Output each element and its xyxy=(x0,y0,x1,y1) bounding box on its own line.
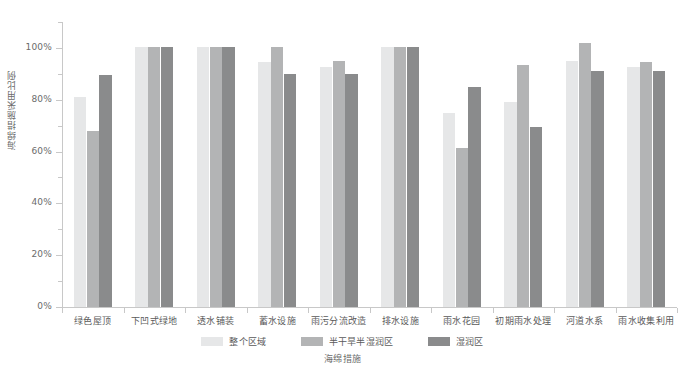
bar xyxy=(407,47,419,307)
bar xyxy=(640,62,652,307)
bar xyxy=(443,113,455,307)
bar xyxy=(284,74,296,307)
bar xyxy=(653,71,665,307)
x-tick-label: 雨水收集利用 xyxy=(601,314,685,327)
x-tick xyxy=(677,308,678,313)
bar xyxy=(87,131,99,307)
x-tick xyxy=(616,308,617,313)
bar xyxy=(456,148,468,307)
x-tick xyxy=(308,308,309,313)
bar xyxy=(135,47,147,307)
x-tick xyxy=(370,308,371,313)
bar xyxy=(504,102,516,307)
bar xyxy=(99,75,111,307)
legend-label: 半干旱半湿润区 xyxy=(329,335,394,348)
legend-swatch xyxy=(201,337,223,346)
bar xyxy=(579,43,591,307)
bar xyxy=(74,97,86,307)
y-tick-label: 100% xyxy=(12,42,52,52)
plot-area xyxy=(62,22,677,307)
bar xyxy=(627,67,639,307)
y-tick-label: 60% xyxy=(12,146,52,156)
bar xyxy=(345,74,357,307)
bar xyxy=(161,47,173,307)
bar xyxy=(381,47,393,307)
x-tick xyxy=(247,308,248,313)
bar xyxy=(468,87,480,307)
bar xyxy=(394,47,406,307)
y-tick-label: 40% xyxy=(12,197,52,207)
legend-item[interactable]: 整个区域 xyxy=(201,335,266,348)
bar xyxy=(320,67,332,307)
bar-chart: 海绵措施采用比例 0%20%40%60%80%100% 绿色屋顶下凹式绿地透水铺… xyxy=(0,0,685,376)
bar xyxy=(333,61,345,307)
legend-label: 湿润区 xyxy=(456,335,484,348)
legend-item[interactable]: 半干旱半湿润区 xyxy=(301,335,394,348)
bar xyxy=(148,47,160,307)
x-tick xyxy=(185,308,186,313)
x-tick xyxy=(431,308,432,313)
x-tick xyxy=(554,308,555,313)
legend-label: 整个区域 xyxy=(229,335,266,348)
legend-swatch xyxy=(301,337,323,346)
y-axis-title: 海绵措施采用比例 xyxy=(6,70,26,150)
legend-swatch xyxy=(428,337,450,346)
bar xyxy=(591,71,603,307)
legend-item[interactable]: 湿润区 xyxy=(428,335,484,348)
chart-legend: 整个区域半干旱半湿润区湿润区 xyxy=(0,335,685,348)
x-tick xyxy=(62,308,63,313)
bar xyxy=(517,65,529,307)
y-tick-label: 20% xyxy=(12,249,52,259)
x-tick xyxy=(124,308,125,313)
y-tick-label: 0% xyxy=(12,301,52,311)
bar xyxy=(258,62,270,307)
bar xyxy=(222,47,234,307)
bar xyxy=(197,47,209,307)
bar xyxy=(566,61,578,307)
x-axis-title: 海绵措施 xyxy=(0,352,685,365)
bar xyxy=(210,47,222,307)
bar xyxy=(271,47,283,307)
x-tick xyxy=(493,308,494,313)
bar xyxy=(530,127,542,307)
y-tick-label: 80% xyxy=(12,94,52,104)
